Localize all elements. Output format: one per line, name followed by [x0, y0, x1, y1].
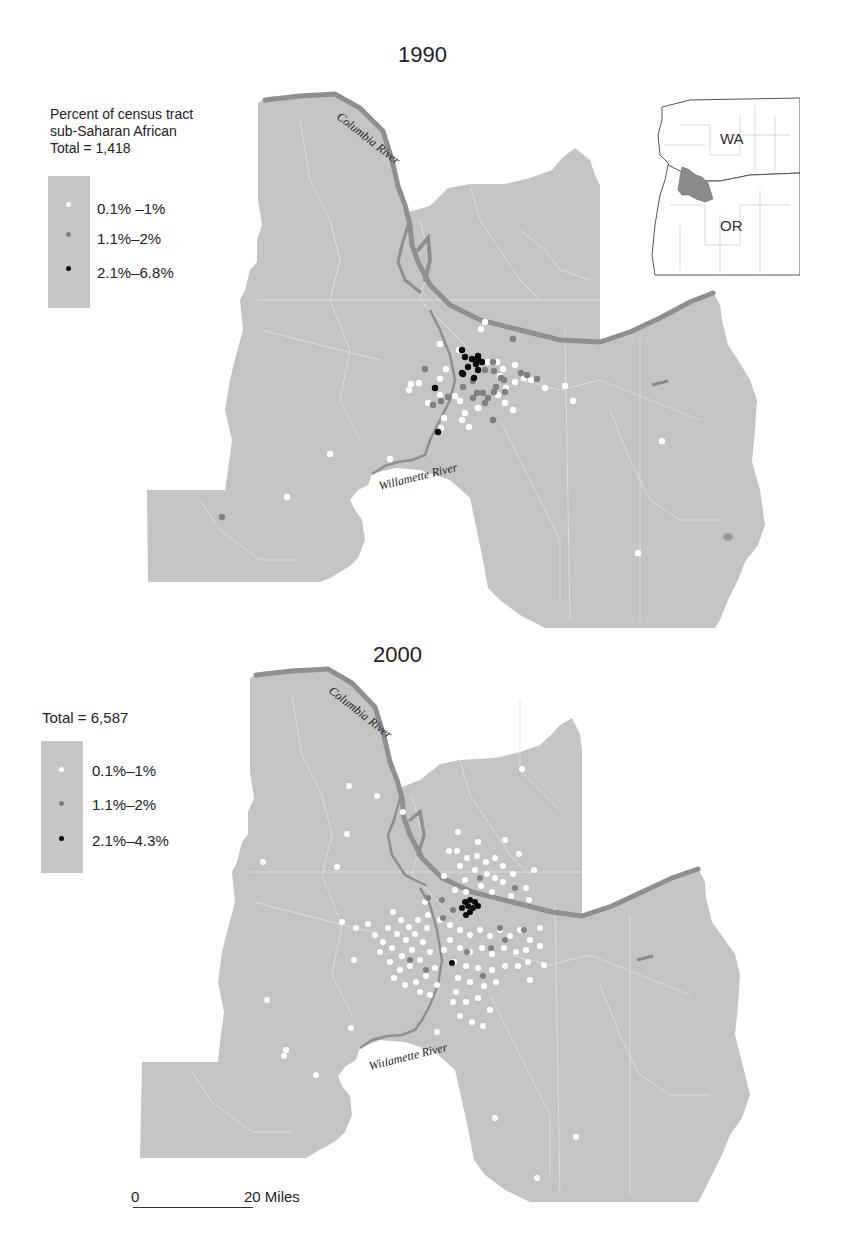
- legend-label-high-1990: 2.1%–6.8%: [97, 264, 174, 281]
- legend-label-mid-1990: 1.1%–2%: [97, 230, 161, 247]
- map-2000: Columbia River Willamette River: [0, 630, 856, 1249]
- legend-dot-high-1990: [66, 266, 71, 271]
- legend-dot-mid-2000: [59, 801, 64, 806]
- inset-label-wa: WA: [720, 130, 744, 147]
- inset-locator-map: [610, 95, 800, 285]
- legend-dot-low-1990: [66, 202, 71, 207]
- inset-label-or: OR: [720, 217, 743, 234]
- scale-bar-end: 20 Miles: [244, 1188, 300, 1205]
- willamette-river-label-2000: Willamette River: [367, 1040, 449, 1073]
- legend-label-high-2000: 2.1%–4.3%: [92, 832, 169, 849]
- land-area-2000: [140, 668, 750, 1202]
- legend-label-low-2000: 0.1%–1%: [92, 762, 156, 779]
- legend-label-mid-2000: 1.1%–2%: [92, 796, 156, 813]
- legend-heading-1990: Percent of census tract sub-Saharan Afri…: [50, 106, 193, 157]
- scale-bar-line: [133, 1207, 253, 1208]
- lake-1990-b: [723, 533, 733, 541]
- legend-heading-line1: Percent of census tract: [50, 106, 193, 123]
- legend-total-1990: Total = 1,418: [50, 140, 193, 157]
- legend-swatch-box-1990: [48, 176, 90, 308]
- legend-total-2000: Total = 6,587: [42, 709, 128, 726]
- legend-dot-high-2000: [59, 836, 64, 841]
- legend-heading-line2: sub-Saharan African: [50, 123, 193, 140]
- legend-dot-low-2000: [59, 767, 64, 772]
- legend-dot-mid-1990: [66, 232, 71, 237]
- scale-bar-start: 0: [131, 1188, 139, 1205]
- legend-label-low-1990: 0.1% –1%: [97, 200, 165, 217]
- legend-swatch-box-2000: [41, 741, 83, 873]
